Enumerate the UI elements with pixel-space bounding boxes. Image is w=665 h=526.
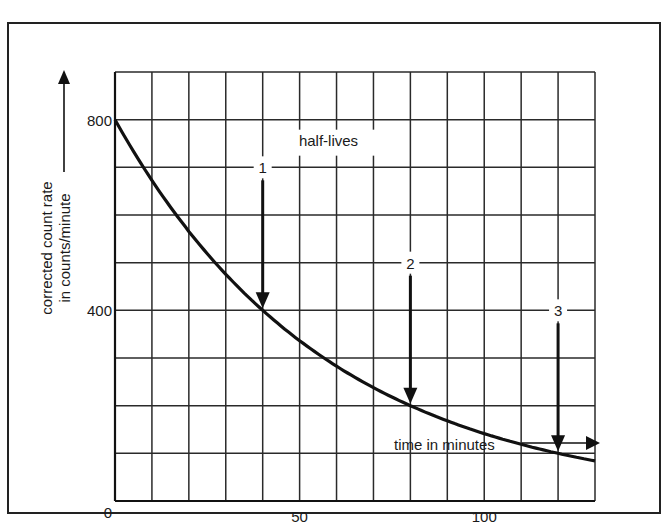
half-life-label: 1 xyxy=(259,159,267,176)
y-tick-label: 800 xyxy=(87,112,112,129)
half-life-label: 2 xyxy=(406,255,414,272)
x-axis-label: time in minutes xyxy=(394,436,495,453)
half-life-label: 3 xyxy=(554,302,562,319)
half-lives-heading: half-lives xyxy=(299,132,358,149)
y-tick-label: 0 xyxy=(104,504,112,521)
x-tick-label: 50 xyxy=(291,508,308,525)
decay-curve xyxy=(115,120,595,461)
y-axis-arrow-icon xyxy=(58,70,70,172)
arrow-down-icon xyxy=(403,388,417,404)
y-tick-label: 400 xyxy=(87,302,112,319)
x-axis-ticks: 50100 xyxy=(291,508,496,525)
y-axis-label-line1: corrected count rate xyxy=(38,181,55,314)
y-axis-label: corrected count rate in counts/minute xyxy=(38,181,73,314)
x-tick-label: 100 xyxy=(472,508,497,525)
y-axis-ticks: 0400800 xyxy=(87,112,112,521)
decay-chart: 123 half-lives 0400800 50100 corrected c… xyxy=(0,0,665,526)
y-axis-label-line2: in counts/minute xyxy=(56,193,73,302)
